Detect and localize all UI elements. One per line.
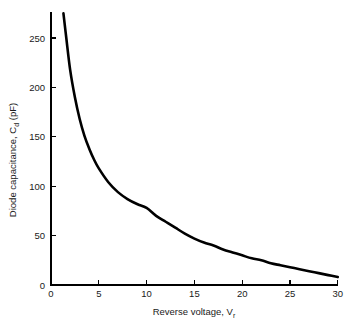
x-axis-title-main: Reverse voltage, V <box>153 306 234 317</box>
x-tick-label: 15 <box>189 288 200 299</box>
x-tick-label: 10 <box>141 288 152 299</box>
y-tick-label: 200 <box>29 82 45 93</box>
y-axis-title: Diode capacitance, Cd (pF) <box>7 103 20 217</box>
capacitance-curve <box>63 13 337 277</box>
x-tick-label: 0 <box>48 288 53 299</box>
y-tick-label: 250 <box>29 33 45 44</box>
x-tick-label: 5 <box>96 288 101 299</box>
y-tick-label: 150 <box>29 131 45 142</box>
y-axis-title-main: Diode capacitance, C <box>7 127 18 217</box>
axis-lines <box>51 12 338 285</box>
x-axis-title: Reverse voltage, Vr <box>153 306 236 319</box>
y-tick-label: 50 <box>34 230 45 241</box>
y-tick-label: 100 <box>29 181 45 192</box>
x-tick-label: 20 <box>237 288 248 299</box>
x-axis-title-subscript: r <box>233 312 236 319</box>
x-tick-label: 25 <box>285 288 296 299</box>
diode-capacitance-chart: 0 50 100 150 200 250 0 5 10 15 20 25 30 … <box>0 0 357 327</box>
x-tick-marks <box>51 280 338 285</box>
x-tick-label: 30 <box>333 288 344 299</box>
y-tick-marks <box>51 38 56 285</box>
y-tick-label: 0 <box>40 280 45 291</box>
chart-plot-area: 0 50 100 150 200 250 0 5 10 15 20 25 30 … <box>0 0 357 327</box>
x-tick-labels: 0 5 10 15 20 25 30 <box>48 288 343 299</box>
y-tick-labels: 0 50 100 150 200 250 <box>29 33 45 291</box>
y-axis-title-unit: (pF) <box>7 103 18 123</box>
